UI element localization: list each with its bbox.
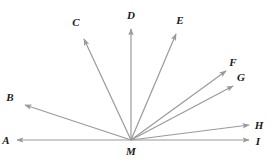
ray-label-a: A: [2, 135, 9, 146]
ray-label-i: I: [256, 136, 260, 147]
ray-label-h: H: [255, 120, 264, 131]
ray-diagram: ABCDEFGHIM: [0, 0, 270, 160]
ray-label-d: D: [127, 10, 135, 21]
ray-label-f: F: [229, 57, 236, 68]
rays-canvas: [0, 0, 270, 160]
ray-label-b: B: [6, 92, 13, 103]
ray-c: [84, 39, 131, 140]
ray-label-e: E: [176, 15, 183, 26]
ray-label-c: C: [72, 17, 79, 28]
vertex-label-m: M: [126, 146, 136, 157]
ray-g: [131, 86, 233, 140]
ray-label-g: G: [237, 72, 245, 83]
ray-b: [25, 105, 131, 140]
